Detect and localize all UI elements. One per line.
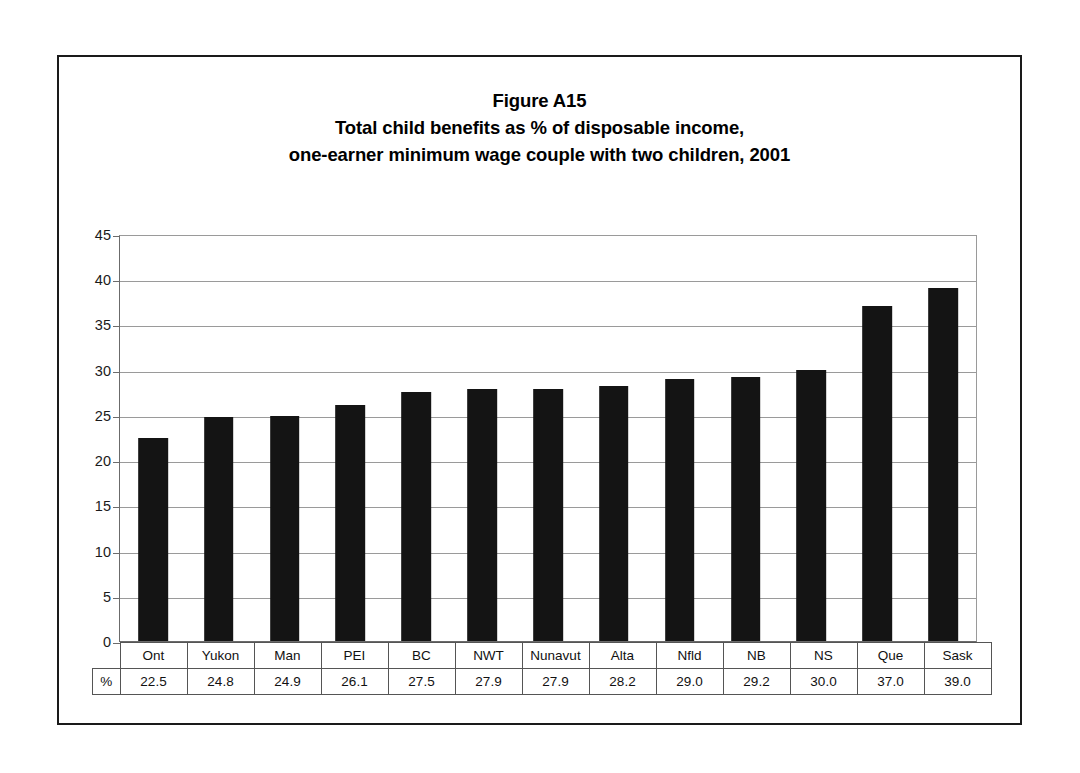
value-cell-bc: 27.5 bbox=[388, 669, 455, 695]
y-tick-label-20: 20 bbox=[71, 454, 111, 469]
category-cell-pei: PEI bbox=[321, 643, 388, 669]
y-tick-mark-45 bbox=[113, 236, 120, 237]
bar-bc[interactable] bbox=[401, 392, 431, 641]
bar-nfld[interactable] bbox=[665, 379, 695, 641]
value-cell-ont: 22.5 bbox=[120, 669, 187, 695]
table-corner-blank bbox=[93, 643, 121, 669]
bar-slot-nfld bbox=[647, 236, 713, 641]
y-tick-mark-15 bbox=[113, 507, 120, 508]
y-tick-label-40: 40 bbox=[71, 273, 111, 288]
bar-man[interactable] bbox=[270, 416, 300, 641]
category-cell-bc: BC bbox=[388, 643, 455, 669]
y-tick-mark-20 bbox=[113, 462, 120, 463]
category-cell-que: Que bbox=[857, 643, 924, 669]
category-cell-man: Man bbox=[254, 643, 321, 669]
value-cell-pei: 26.1 bbox=[321, 669, 388, 695]
y-tick-label-35: 35 bbox=[71, 318, 111, 333]
y-tick-mark-40 bbox=[113, 281, 120, 282]
table-row-values: % 22.524.824.926.127.527.927.928.229.029… bbox=[93, 669, 992, 695]
y-tick-mark-25 bbox=[113, 417, 120, 418]
table-row-categories: OntYukonManPEIBCNWTNunavutAltaNfldNBNSQu… bbox=[93, 643, 992, 669]
y-tick-label-25: 25 bbox=[71, 409, 111, 424]
y-tick-mark-5 bbox=[113, 598, 120, 599]
category-cell-ns: NS bbox=[790, 643, 857, 669]
bar-slot-yukon bbox=[186, 236, 252, 641]
value-cell-nb: 29.2 bbox=[723, 669, 790, 695]
category-cell-nb: NB bbox=[723, 643, 790, 669]
y-axis: 051015202530354045 bbox=[67, 235, 111, 642]
value-cell-sask: 39.0 bbox=[924, 669, 991, 695]
value-cell-yukon: 24.8 bbox=[187, 669, 254, 695]
bar-ns[interactable] bbox=[797, 370, 827, 641]
y-tick-label-15: 15 bbox=[71, 499, 111, 514]
y-tick-label-10: 10 bbox=[71, 545, 111, 560]
bar-yukon[interactable] bbox=[204, 417, 234, 641]
y-tick-label-30: 30 bbox=[71, 364, 111, 379]
bar-alta[interactable] bbox=[599, 386, 629, 641]
bar-slot-pei bbox=[318, 236, 384, 641]
bar-slot-man bbox=[252, 236, 318, 641]
category-cell-ont: Ont bbox=[120, 643, 187, 669]
bar-slot-bc bbox=[383, 236, 449, 641]
value-cell-man: 24.9 bbox=[254, 669, 321, 695]
bar-pei[interactable] bbox=[336, 405, 366, 641]
y-tick-label-45: 45 bbox=[71, 228, 111, 243]
bars-layer bbox=[120, 236, 976, 641]
bar-slot-nb bbox=[713, 236, 779, 641]
category-cell-sask: Sask bbox=[924, 643, 991, 669]
bar-que[interactable] bbox=[862, 306, 892, 641]
bar-slot-ont bbox=[120, 236, 186, 641]
bar-nb[interactable] bbox=[731, 377, 761, 641]
value-cell-nunavut: 27.9 bbox=[522, 669, 589, 695]
unit-label-cell: % bbox=[93, 669, 121, 695]
value-cell-que: 37.0 bbox=[857, 669, 924, 695]
category-cell-nunavut: Nunavut bbox=[522, 643, 589, 669]
bar-slot-alta bbox=[581, 236, 647, 641]
bar-slot-ns bbox=[778, 236, 844, 641]
bar-nwt[interactable] bbox=[467, 389, 497, 641]
value-cell-ns: 30.0 bbox=[790, 669, 857, 695]
bar-nunavut[interactable] bbox=[533, 389, 563, 641]
category-cell-yukon: Yukon bbox=[187, 643, 254, 669]
value-cell-alta: 28.2 bbox=[589, 669, 656, 695]
bar-chart: 051015202530354045 OntYukonManPEIBCNWTNu… bbox=[59, 57, 1020, 723]
y-tick-mark-35 bbox=[113, 326, 120, 327]
value-cell-nwt: 27.9 bbox=[455, 669, 522, 695]
y-tick-mark-30 bbox=[113, 372, 120, 373]
category-cell-nfld: Nfld bbox=[656, 643, 723, 669]
category-cell-nwt: NWT bbox=[455, 643, 522, 669]
y-tick-mark-10 bbox=[113, 553, 120, 554]
category-cell-alta: Alta bbox=[589, 643, 656, 669]
bar-slot-sask bbox=[910, 236, 976, 641]
bar-slot-que bbox=[844, 236, 910, 641]
data-table: OntYukonManPEIBCNWTNunavutAltaNfldNBNSQu… bbox=[92, 642, 992, 695]
bar-sask[interactable] bbox=[928, 288, 958, 641]
figure-frame: Figure A15 Total child benefits as % of … bbox=[57, 55, 1022, 725]
plot-area bbox=[119, 235, 977, 642]
bar-ont[interactable] bbox=[138, 438, 168, 642]
y-tick-label-5: 5 bbox=[71, 590, 111, 605]
bar-slot-nwt bbox=[449, 236, 515, 641]
bar-slot-nunavut bbox=[515, 236, 581, 641]
value-cell-nfld: 29.0 bbox=[656, 669, 723, 695]
